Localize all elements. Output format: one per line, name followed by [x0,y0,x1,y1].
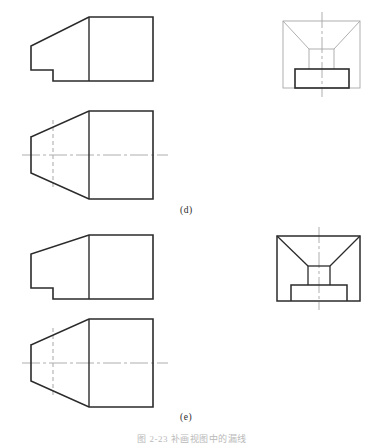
top-view-e [22,319,168,407]
side-view-e-taper-left [277,236,308,266]
front-view-e [31,235,153,299]
figure-label-d: (d) [180,205,193,215]
figure-e [22,227,360,407]
side-view-d-taper-right [334,21,360,49]
side-view-e [277,227,360,310]
front-view-d-outline [31,17,153,81]
figure-d [22,12,360,199]
top-view-d [22,111,168,199]
figure-label-e: (e) [180,412,192,422]
side-view-d [283,12,360,97]
side-view-e-taper-right [330,236,360,266]
front-view-e-outline [31,235,153,299]
side-view-d-taper-left [283,21,309,49]
front-view-d [31,17,153,81]
figure-caption: 图 2-23 补画视图中的漏线 [0,432,384,445]
